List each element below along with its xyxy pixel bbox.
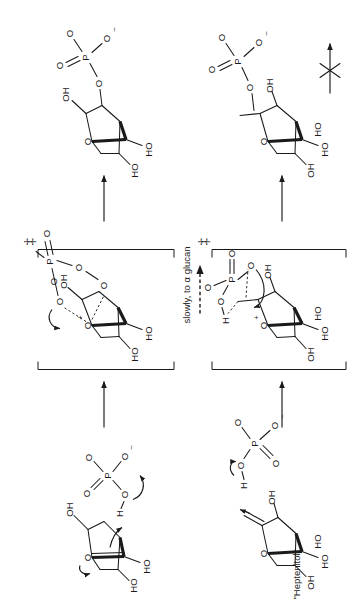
molecule-heptenitol-reactant: "Heptenitol" O OH OH HO HO: [240, 490, 330, 599]
atom-oxygen: O: [54, 297, 65, 304]
atom-hydroxyl: OH: [305, 347, 316, 361]
atom-oxygen: O: [119, 490, 130, 497]
atom-hydroxyl: HO: [319, 326, 330, 340]
molecule-phosphate-anion: P O O O – O H: [81, 445, 144, 516]
charge-minus: –: [110, 27, 117, 31]
atom-phosphorus: P: [80, 54, 91, 60]
atom-oxygen: O: [245, 261, 256, 268]
atom-oxygen: O: [48, 277, 59, 284]
atom-hydroxyl: HO: [143, 142, 154, 156]
molecule-phosphoric-acid: H O P O O O –: [230, 414, 284, 488]
atom-oxygen: O: [270, 459, 281, 466]
transition-state-heptenitol: ‡ O + OH OH HO HO H O P: [195, 237, 346, 369]
atom-phosphorus: P: [226, 276, 237, 282]
atom-hydroxyl: OH: [264, 78, 275, 92]
atom-oxygen: O: [235, 461, 246, 468]
atom-hydrogen: H: [220, 316, 231, 323]
bracket-left: [212, 361, 346, 369]
atom-ring-oxygen: O: [258, 549, 269, 556]
atom-ring-oxygen: O: [82, 321, 93, 328]
atom-oxygen: O: [244, 83, 255, 90]
atom-oxygen: O: [54, 61, 65, 68]
atom-phosphorus: P: [102, 472, 113, 478]
charge-minus: –: [262, 31, 269, 35]
atom-hydrogen: H: [114, 509, 125, 516]
atom-hydroxyl: OH: [64, 502, 75, 516]
atom-hydroxyl: HO: [129, 163, 140, 177]
slow-reaction-annotation: slowly, to α glucan: [181, 246, 200, 323]
atom-hydroxyl: HO: [143, 326, 154, 340]
atom-hydroxyl: HO: [319, 554, 330, 568]
atom-oxygen: O: [232, 418, 243, 425]
atom-phosphorus: P: [232, 58, 243, 64]
atom-oxygen: O: [64, 29, 75, 36]
atom-ring-oxygen: O: [82, 137, 93, 144]
atom-hydroxyl: OH: [60, 87, 71, 101]
atom-oxygen: O: [216, 33, 227, 40]
molecule-glucose-1-phosphate: O OH HO HO O P O O O –: [54, 27, 154, 177]
heptenitol-label: "Heptenitol": [291, 549, 302, 599]
curved-arrow-nucleophile: [133, 475, 143, 499]
atom-oxygen: O: [41, 229, 52, 236]
atom-ring-oxygen: O: [258, 137, 269, 144]
atom-hydroxyl: OH: [262, 264, 273, 278]
transition-state-glucal: ‡ O + OH HO HO O O P: [21, 229, 174, 369]
atom-oxygen: O: [202, 283, 213, 290]
molecule-glucal-reactant: O OH HO HO: [64, 502, 152, 592]
atom-hydroxyl: OH: [58, 274, 69, 288]
atom-hydroxyl: OH: [305, 163, 316, 177]
atom-ring-oxygen: O: [258, 321, 269, 328]
atom-hydroxyl: OH: [305, 575, 316, 589]
atom-oxygen: O: [81, 489, 92, 496]
atom-oxygen: O: [269, 421, 280, 428]
atom-hydroxyl: HO: [319, 142, 330, 156]
atom-hydroxyl: HO: [141, 559, 152, 573]
reaction-condition-label: slowly, to α glucan: [181, 246, 192, 323]
bracket-right: [38, 249, 174, 257]
atom-hydroxyl: HO: [312, 122, 323, 136]
atom-hydroxyl: HO: [128, 578, 139, 592]
charge-minus: –: [278, 414, 285, 418]
atom-ring-oxygen: O: [82, 553, 93, 560]
curved-arrow-electron-push: [80, 565, 90, 574]
double-dagger-symbol: ‡: [21, 237, 37, 245]
double-dagger-symbol: ‡: [195, 237, 211, 245]
charge-plus: +: [253, 315, 260, 319]
atom-oxygen: O: [98, 281, 109, 288]
atom-oxygen: O: [206, 65, 217, 72]
partial-bond: [92, 295, 104, 319]
no-reaction-crossed-arrow: [320, 43, 340, 93]
atom-oxygen: O: [226, 249, 237, 256]
bracket-left: [38, 361, 174, 369]
charge-minus: –: [127, 445, 134, 449]
atom-phosphorus: P: [249, 440, 260, 446]
curved-arrow-alkene: [240, 509, 250, 513]
atom-hydroxyl: OH: [266, 490, 277, 504]
atom-hydrogen: H: [238, 481, 249, 488]
atom-hydroxyl: HO: [129, 347, 140, 361]
reaction-scheme-svg: O OH HO HO P O O O – O H: [0, 0, 352, 613]
curved-arrow-ts: [49, 309, 60, 328]
molecule-heptenitol-phosphate-product: O OH OH HO HO O P O O O –: [206, 31, 330, 177]
atom-oxygen: O: [253, 38, 264, 45]
reaction-scheme-figure: O OH HO HO P O O O – O H: [0, 0, 352, 613]
atom-oxygen: O: [101, 34, 112, 41]
atom-phosphorus: P: [44, 258, 55, 264]
atom-oxygen: O: [93, 79, 104, 86]
atom-oxygen: O: [215, 297, 226, 304]
partial-bond: [228, 301, 238, 313]
scheme-canvas: O OH HO HO P O O O – O H: [0, 0, 352, 613]
atom-oxygen: O: [119, 452, 130, 459]
atom-hydroxyl: HO: [312, 306, 323, 320]
atom-hydroxyl: HO: [312, 534, 323, 548]
atom-oxygen: O: [83, 453, 94, 460]
atom-oxygen: O: [73, 263, 84, 270]
